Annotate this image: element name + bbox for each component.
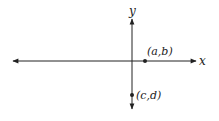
point-a-b-label: (a,b)	[147, 45, 173, 58]
y-axis-label: y	[128, 4, 136, 18]
point-c-d-label: (c,d)	[136, 89, 161, 102]
point-c-d-dot	[130, 93, 134, 97]
coordinate-plane: x y (a,b) (c,d)	[0, 0, 219, 121]
point-a-b-dot	[143, 59, 147, 63]
x-axis-label: x	[199, 54, 206, 68]
